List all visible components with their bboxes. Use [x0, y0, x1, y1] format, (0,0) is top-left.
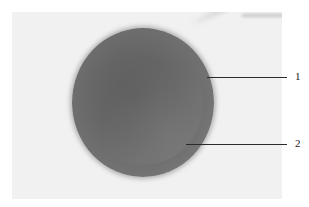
label-1: 1: [295, 71, 301, 82]
label-2: 2: [295, 138, 301, 149]
leader-line-2: [186, 144, 287, 145]
leader-line-1: [207, 77, 287, 78]
micrograph-photo: [12, 12, 282, 199]
specimen-sphere: [72, 28, 214, 177]
stalk-structure-faint: [242, 14, 282, 17]
